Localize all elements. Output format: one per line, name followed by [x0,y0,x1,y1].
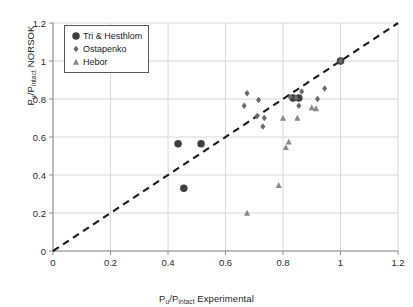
data-point-triangle [294,115,300,121]
y-tick-label: 0.4 [0,170,46,181]
chart-legend: Tri & HesthlomOstapenkoHebor [64,25,149,73]
data-point-diamond [322,85,327,92]
data-points-layer [174,57,344,215]
data-point-circle [180,185,188,193]
y-axis-title-lead: P [25,99,36,105]
legend-diamond-icon [69,43,82,55]
data-point-triangle [280,115,286,121]
legend-triangle-icon [69,56,82,68]
data-point-diamond [260,123,265,130]
y-tick-label: 1 [0,56,46,67]
data-point-diamond [299,88,304,95]
data-point-circle [197,140,205,148]
data-point-diamond [242,102,247,109]
data-point-triangle [283,144,289,150]
y-axis-title-lead-sub: u [30,95,37,99]
data-point-diamond [245,90,250,97]
data-point-triangle [313,105,319,111]
y-axis-title-mid-sub: intact [30,70,37,86]
data-point-diamond [262,115,267,122]
data-point-diamond [296,102,301,109]
x-tick-label: 1.2 [391,257,404,268]
x-axis-title-lead-sub: u [166,298,170,305]
data-point-diamond [256,97,261,104]
y-axis-title-mid: /P [25,86,36,95]
legend-item: Ostapenko [69,42,142,55]
x-tick-label: 0.4 [161,257,174,268]
y-tick-label: 1.2 [0,18,46,29]
legend-item-label: Ostapenko [82,44,127,54]
y-tick-label: 0 [0,246,46,257]
x-tick-label: 0.6 [219,257,232,268]
legend-item: Hebor [69,55,142,68]
x-axis-title-mid-sub: intact [178,298,194,305]
x-axis-title: Pu/Pintact Experimental [0,293,413,304]
y-axis-title: Pu/Pintact NORSOK [25,0,36,156]
y-tick-label: 0.8 [0,94,46,105]
data-point-triangle [286,139,292,145]
x-tick-label: 0 [50,257,55,268]
scatter-plot-figure: 00.20.40.60.811.2 00.20.40.60.811.2 Pu/P… [0,0,413,307]
legend-marker-diamond [73,45,78,52]
x-axis-title-tail: Experimental [195,293,254,304]
x-tick-label: 0.8 [276,257,289,268]
legend-circle-icon [69,30,82,42]
legend-item: Tri & Hesthlom [69,29,142,42]
legend-marker-circle [72,32,80,40]
x-axis-title-lead: P [159,293,165,304]
data-point-diamond [315,96,320,103]
legend-item-label: Tri & Hesthlom [82,31,142,41]
plot-canvas [0,0,413,307]
y-axis-title-tail: NORSOK [25,26,36,71]
data-point-triangle [309,104,315,110]
y-tick-label: 0.2 [0,208,46,219]
legend-item-label: Hebor [82,57,108,67]
data-point-triangle [276,182,282,188]
data-point-circle [174,140,182,148]
x-tick-label: 0.2 [104,257,117,268]
x-tick-label: 1 [338,257,343,268]
legend-marker-triangle [72,58,78,64]
y-tick-label: 0.6 [0,132,46,143]
